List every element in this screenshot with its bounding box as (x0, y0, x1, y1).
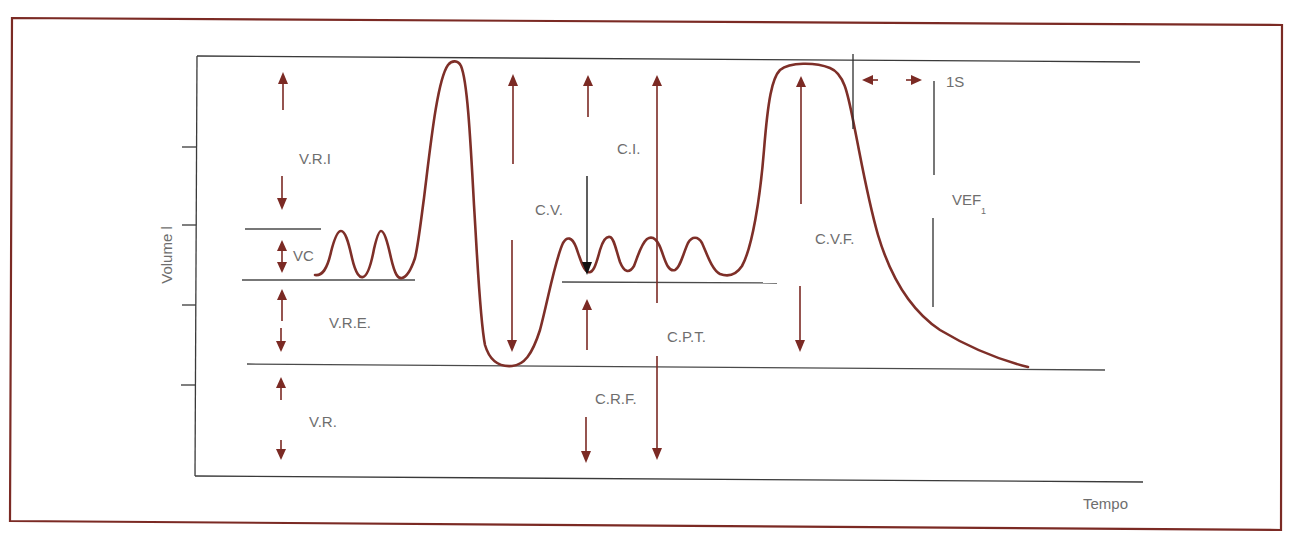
label-vri: V.R.I (299, 150, 331, 167)
label-vef1: VEF (952, 191, 981, 208)
one-second-arrows (862, 75, 922, 85)
label-cvf: C.V.F. (815, 230, 854, 247)
label-one-second: 1S (946, 73, 964, 90)
x-axis-label: Tempo (1083, 495, 1128, 512)
y-axis (195, 56, 197, 476)
cv-arrows (507, 74, 518, 352)
residual-line (247, 364, 1105, 370)
label-cpt: C.P.T. (667, 328, 706, 345)
spirometry-diagram: Volume l Tempo V.R.I VC V.R.E. V.R. C.V.… (0, 0, 1293, 539)
vc-arrows (277, 240, 287, 273)
label-vef1-subscript: 1 (981, 206, 986, 216)
cpt-arrows (652, 75, 662, 460)
y-axis-label: Volume l (158, 226, 175, 284)
label-cv: C.V. (535, 201, 563, 218)
frc-line (562, 282, 777, 283)
y-ticks (181, 147, 197, 385)
vr-arrows (276, 377, 286, 460)
label-vr: V.R. (309, 413, 337, 430)
cvf-arrows (795, 76, 806, 352)
x-axis (195, 476, 1143, 482)
outer-frame (10, 18, 1282, 530)
volume-curve (315, 61, 1028, 367)
label-ci: C.I. (617, 140, 640, 157)
label-vre: V.R.E. (329, 314, 371, 331)
crf-arrows (581, 299, 592, 463)
vre-arrows (276, 289, 287, 352)
ci-arrows (582, 75, 593, 275)
label-crf: C.R.F. (595, 390, 637, 407)
label-vc: VC (293, 247, 314, 264)
top-reference-line (197, 56, 1140, 62)
vri-arrows (277, 72, 288, 210)
